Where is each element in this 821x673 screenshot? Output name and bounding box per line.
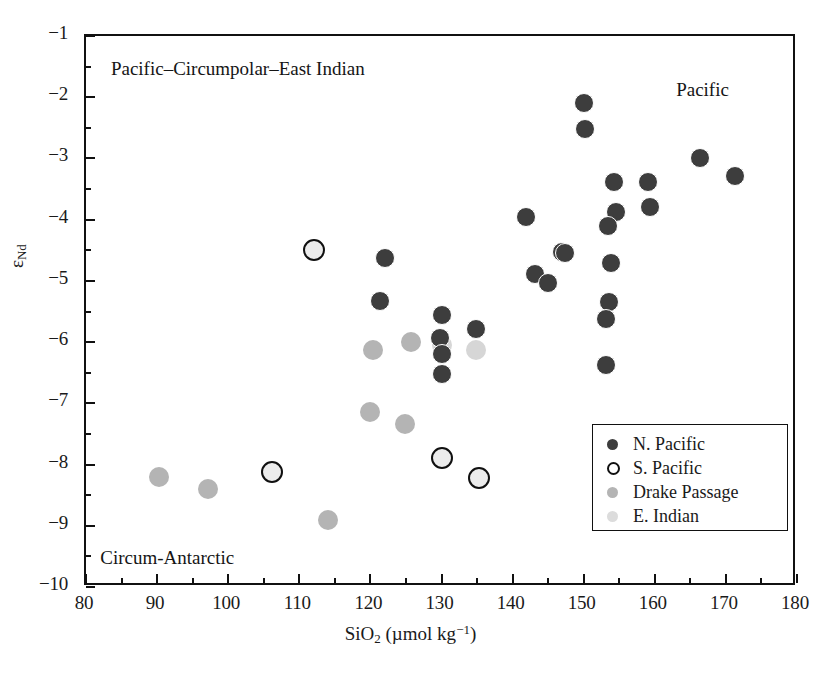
x-axis-minor-tick [263,578,265,583]
x-tick-label: 140 [481,592,541,614]
x-tick-label: 150 [552,592,612,614]
legend-marker-icon [607,439,633,450]
data-point [725,166,745,186]
data-point [466,340,486,360]
x-tick-label: 170 [694,592,754,614]
y-axis-minor-tick [86,127,91,129]
data-point [596,355,616,375]
x-axis-major-tick [85,574,87,583]
y-axis-minor-tick [86,372,91,374]
y-tick-label: −10 [18,573,68,595]
y-axis-minor-tick [86,555,91,557]
x-axis-major-tick [725,574,727,583]
y-tick-label: −3 [18,144,68,166]
legend-label: Drake Passage [633,483,738,501]
scatter-plot-figure: εNd SiO2 (µmol kg−1) 8090100110120130140… [0,0,821,673]
y-axis-major-tick [86,35,95,37]
data-point [604,172,624,192]
y-tick-label: −8 [18,451,68,473]
legend-item: E. Indian [607,504,787,528]
data-point [432,364,452,384]
x-axis-minor-tick [121,578,123,583]
y-axis-minor-tick [86,433,91,435]
x-axis-major-tick [441,574,443,583]
data-point [363,340,383,360]
legend-marker-dot [607,487,618,498]
x-axis-minor-tick [192,578,194,583]
y-axis-major-tick [86,341,95,343]
legend-marker-icon [607,487,633,498]
legend-item: N. Pacific [607,432,787,456]
y-axis-major-tick [86,219,95,221]
y-axis-major-tick [86,157,95,159]
plot-area: Pacific–Circumpolar–East IndianPacificCi… [84,34,795,585]
y-axis-minor-tick [86,494,91,496]
legend-rows: N. PacificS. PacificDrake PassageE. Indi… [607,432,787,528]
legend-label: E. Indian [633,507,699,525]
x-axis-major-tick [654,574,656,583]
x-axis-minor-tick [405,578,407,583]
data-point [360,402,380,422]
data-point [401,332,421,352]
y-axis-minor-tick [86,249,91,251]
x-axis-major-tick [796,574,798,583]
legend-marker-dot [607,462,620,475]
y-tick-label: −4 [18,206,68,228]
data-point [431,447,453,469]
legend: N. PacificS. PacificDrake PassageE. Indi… [592,424,788,531]
data-point [690,148,710,168]
y-axis-title-subscript: Nd [14,244,29,260]
x-axis-unit-open: (µmol kg [381,623,456,644]
data-point [538,273,558,293]
data-point [432,344,452,364]
x-axis-minor-tick [476,578,478,583]
y-tick-label: −7 [18,389,68,411]
data-point [375,248,395,268]
data-point [575,119,595,139]
x-tick-label: 120 [338,592,398,614]
y-tick-label: −5 [18,267,68,289]
x-axis-unit-close: ) [470,623,476,644]
x-tick-label: 110 [267,592,327,614]
y-axis-title: εNd [6,244,30,268]
plot-annotation: Circum-Antarctic [100,547,234,569]
x-axis-minor-tick [689,578,691,583]
data-point [432,305,452,325]
legend-label: S. Pacific [633,459,702,477]
y-axis-minor-tick [86,311,91,313]
y-tick-label: −6 [18,328,68,350]
x-axis-minor-tick [547,578,549,583]
data-point [261,461,283,483]
data-point [598,216,618,236]
data-point [466,319,486,339]
y-axis-major-tick [86,464,95,466]
y-axis-major-tick [86,280,95,282]
data-point [303,239,325,261]
plot-annotation: Pacific [676,79,729,101]
legend-label: N. Pacific [633,435,705,453]
plot-annotation: Pacific–Circumpolar–East Indian [111,58,365,80]
x-tick-label: 100 [196,592,256,614]
y-axis-major-tick [86,525,95,527]
x-axis-major-tick [583,574,585,583]
data-point [640,197,660,217]
x-axis-minor-tick [618,578,620,583]
y-axis-major-tick [86,96,95,98]
data-point [198,479,218,499]
legend-marker-dot [607,439,618,450]
data-point [574,93,594,113]
y-tick-label: −2 [18,83,68,105]
y-axis-minor-tick [86,188,91,190]
data-point [555,243,575,263]
data-point [601,253,621,273]
x-axis-major-tick [369,574,371,583]
data-point [318,510,338,530]
data-point [516,207,536,227]
x-axis-major-tick [298,574,300,583]
x-axis-title: SiO2 (µmol kg−1) [0,622,821,647]
x-axis-major-tick [512,574,514,583]
legend-marker-dot [607,511,618,522]
y-axis-major-tick [86,402,95,404]
x-axis-minor-tick [760,578,762,583]
x-axis-minor-tick [334,578,336,583]
